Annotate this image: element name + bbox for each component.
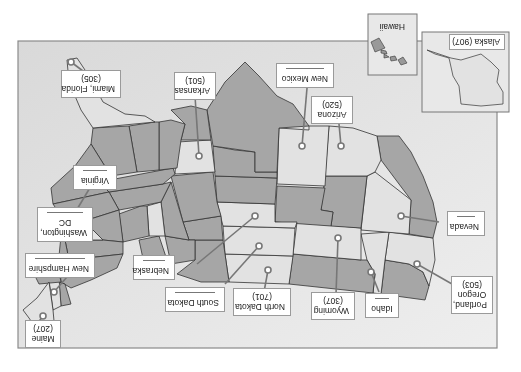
label-washington-dc[interactable]: Washington, DC — [37, 207, 93, 242]
label-text: Nevada — [450, 222, 479, 232]
label-portland-oregon: Portland, Oregon (503) — [451, 276, 493, 314]
label-virginia[interactable]: Virginia — [73, 165, 117, 190]
label-new-hampshire[interactable]: New Hampshire — [25, 253, 95, 278]
label-alaska: Alaska (907) — [449, 34, 505, 50]
label-text: Oregon — [458, 290, 486, 300]
blank-line[interactable] — [83, 170, 107, 171]
label-area-code: (520) — [322, 100, 342, 110]
blank-line[interactable] — [47, 212, 83, 213]
state-north-dakota — [225, 254, 293, 284]
label-wyoming: Wyoming (307) — [311, 292, 355, 320]
blank-line[interactable] — [457, 216, 475, 217]
label-area-code: (501) — [185, 76, 205, 86]
label-text: Hawaii — [379, 22, 405, 32]
label-hawaii: Hawaii — [379, 22, 405, 32]
blank-line[interactable] — [143, 260, 165, 261]
label-text: Wyoming — [314, 306, 349, 316]
label-north-dakota: North Dakota (701) — [233, 288, 291, 316]
state-south-dakota — [223, 226, 295, 256]
label-south-dakota[interactable]: South Dakota — [165, 287, 225, 312]
map-canvas: Portland, Oregon (503) Nevada Idaho Wyom… — [0, 0, 521, 372]
label-text: New Hampshire — [29, 264, 89, 274]
label-text: Miami, Florida — [62, 84, 115, 94]
label-area-code: (307) — [323, 296, 343, 306]
blank-line[interactable] — [286, 68, 324, 69]
label-text: North Dakota — [235, 302, 285, 312]
label-arizona: Arizona (520) — [311, 96, 353, 124]
label-text: Washington, — [40, 228, 87, 238]
label-area-code: (503) — [462, 280, 482, 290]
label-nebraska[interactable]: Nebraska — [133, 255, 175, 280]
label-idaho[interactable]: Idaho — [365, 293, 399, 318]
label-text: Arizona — [318, 110, 347, 120]
blank-line[interactable] — [375, 298, 389, 299]
label-nevada[interactable]: Nevada — [447, 211, 485, 236]
label-text: Portland, — [453, 300, 487, 310]
blank-line[interactable] — [175, 292, 215, 293]
label-text: Alaska (907) — [452, 37, 500, 47]
label-area-code: (305) — [81, 74, 101, 84]
label-arkansas: Arkansas (501) — [174, 72, 216, 100]
label-text: Idaho — [371, 304, 392, 314]
state-kansas — [215, 176, 277, 204]
label-maine: Maine (207) — [25, 320, 61, 348]
label-text: Nebraska — [133, 266, 169, 276]
blank-line[interactable] — [35, 258, 85, 259]
label-area-code: (207) — [33, 324, 53, 334]
label-text: Virginia — [81, 176, 109, 186]
label-text: Maine — [31, 334, 54, 344]
label-text: DC — [59, 218, 71, 228]
state-arkansas — [175, 140, 215, 174]
label-text: New Mexico — [282, 74, 328, 84]
label-text: Arkansas — [175, 86, 210, 96]
label-new-mexico[interactable]: New Mexico — [276, 63, 334, 88]
label-text: South Dakota — [167, 298, 219, 308]
label-area-code: (701) — [252, 292, 272, 302]
label-miami-florida: Miami, Florida (305) — [61, 70, 121, 98]
